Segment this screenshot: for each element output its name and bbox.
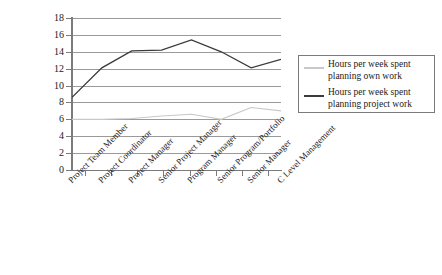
- y-axis-tick: [66, 18, 72, 19]
- y-axis-tick: [66, 153, 72, 154]
- y-axis-tick: [66, 136, 72, 137]
- y-axis-tick: [66, 102, 72, 103]
- legend-swatch-own-work: [303, 63, 325, 73]
- y-axis-label: 16: [44, 30, 64, 40]
- x-axis-category-label: C Level Management: [275, 123, 337, 185]
- y-axis-label: 4: [44, 131, 64, 141]
- legend-item-project-work: Hours per week spent planning project wo…: [299, 84, 434, 112]
- y-axis-tick: [66, 86, 72, 87]
- legend: Hours per week spent planning own work H…: [298, 55, 435, 113]
- y-axis-label: 18: [44, 13, 64, 23]
- legend-label-own-work: Hours per week spent planning own work: [325, 59, 430, 82]
- y-axis-label: 0: [44, 165, 64, 175]
- x-axis-tick: [242, 171, 243, 176]
- y-axis-label: 6: [44, 114, 64, 124]
- y-axis-tick: [66, 35, 72, 36]
- y-axis-label: 12: [44, 64, 64, 74]
- x-axis-tick: [268, 171, 269, 176]
- series-line-own-work: [72, 108, 281, 120]
- legend-swatch-project-work: [303, 91, 325, 101]
- series-line-project-work: [72, 40, 281, 97]
- line-chart: Hours per week spent planning own work H…: [0, 0, 442, 275]
- y-axis-tick: [66, 170, 72, 171]
- legend-item-own-work: Hours per week spent planning own work: [299, 56, 434, 84]
- legend-label-project-work: Hours per week spent planning project wo…: [325, 87, 430, 110]
- y-axis-tick: [66, 52, 72, 53]
- y-axis-label: 8: [44, 97, 64, 107]
- y-axis-tick: [66, 69, 72, 70]
- y-axis-label: 14: [44, 47, 64, 57]
- y-axis-label: 2: [44, 148, 64, 158]
- y-axis-label: 10: [44, 81, 64, 91]
- y-axis-tick: [66, 119, 72, 120]
